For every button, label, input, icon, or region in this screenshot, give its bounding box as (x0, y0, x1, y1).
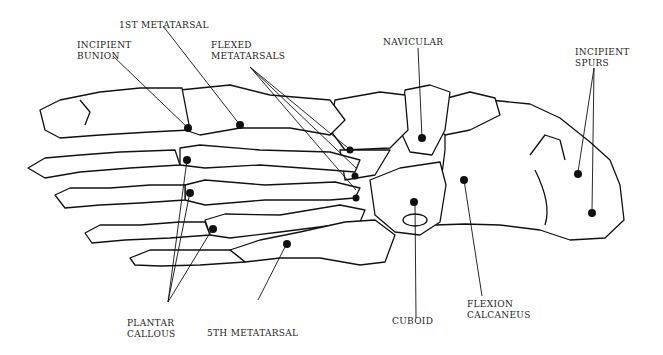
label-incipient-spurs-line1: INCIPIENT (575, 47, 630, 57)
label-fifth-metatarsal: 5TH METATARSAL (207, 328, 298, 338)
first-metatarsal-bone (180, 85, 345, 135)
hallux-phalanges (40, 88, 190, 138)
dot-first-metatarsal (236, 121, 244, 129)
label-flexed-metatarsals-line2: METATARSALS (211, 51, 285, 61)
label-first-metatarsal: 1ST METATARSAL (119, 20, 209, 30)
label-flexed-metatarsals-line1: FLEXED (211, 40, 252, 50)
dot-navicular (418, 134, 426, 142)
label-plantar-callous-line1: PLANTAR (127, 318, 174, 328)
label-flexion-calcaneus-line2: CALCANEUS (467, 310, 531, 320)
fourth-toe (85, 222, 210, 243)
dot-flexed-1 (347, 147, 354, 154)
label-flexion-calcaneus-line1: FLEXION (467, 299, 513, 309)
dot-callous-2 (186, 189, 194, 197)
third-metatarsal-bone (185, 180, 360, 205)
dot-cuboid (410, 198, 418, 206)
label-cuboid: CUBOID (392, 316, 433, 326)
label-incipient-bunion-line2: BUNION (77, 51, 120, 61)
third-toe (55, 185, 185, 208)
second-toe (28, 150, 180, 178)
dot-incipient-bunion (184, 124, 192, 132)
dot-callous-3 (209, 225, 217, 233)
dot-callous-1 (183, 156, 191, 164)
dot-flexed-2 (352, 173, 359, 180)
dot-calcaneus (460, 176, 468, 184)
label-incipient-spurs-line2: SPURS (575, 58, 609, 68)
label-plantar-callous-line2: CALLOUS (127, 329, 176, 339)
dot-fifth-metatarsal (283, 240, 291, 248)
dot-flexed-3 (353, 195, 360, 202)
label-incipient-bunion-line1: INCIPIENT (77, 40, 132, 50)
dot-spur-1 (574, 170, 582, 178)
dot-spur-2 (588, 209, 596, 217)
fifth-toe (130, 250, 245, 266)
second-metatarsal-bone (180, 145, 360, 172)
label-navicular: NAVICULAR (383, 37, 443, 47)
